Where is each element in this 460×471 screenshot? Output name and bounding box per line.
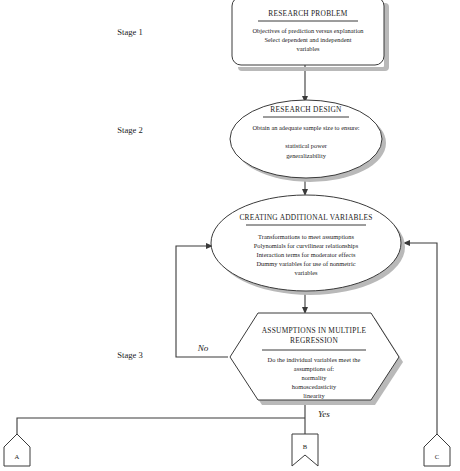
stage-label-3: Stage 3 [117,350,143,360]
offpage-connector-b[interactable]: B [292,434,318,466]
node-research-problem[interactable]: RESEARCH PROBLEM Objectives of predictio… [232,0,389,71]
stage-label-2: Stage 2 [117,125,143,135]
creating-variables-line-5: variables [294,269,318,276]
assumptions-line-2: assumptions of: [294,365,335,372]
research-problem-line-1: Objectives of prediction versus explanat… [252,27,364,34]
research-problem-line-2: Select dependent and independent [264,36,351,43]
research-design-line-1: Obtain an adequate sample size to ensure… [252,124,359,131]
assumptions-line-1: Do the individual variables meet the [268,356,361,363]
creating-variables-line-4: Dummy variables for use of nonmetric [256,260,355,267]
stage-label-1: Stage 1 [117,27,143,37]
assumptions-title-line-2: REGRESSION [290,336,338,345]
creating-variables-title: CREATING ADDITIONAL VARIABLES [239,213,372,222]
offpage-connector-a[interactable]: A [4,434,30,466]
flowchart-page: RESEARCH PROBLEM Objectives of predictio… [0,0,460,471]
connector-a-shape [4,434,30,466]
node-creating-additional-variables[interactable]: CREATING ADDITIONAL VARIABLES Transforma… [211,195,405,295]
flowchart-canvas: RESEARCH PROBLEM Objectives of predictio… [0,0,460,471]
assumptions-line-5: linearity [303,392,325,399]
research-problem-line-3: variables [296,45,320,52]
research-design-line-4: generalizability [286,152,327,159]
connector-c-shape [424,434,450,466]
connector-b-shape [292,434,318,466]
connector-b-label: B [303,443,308,450]
edge-to-a [17,418,305,434]
branch-label-yes: Yes [318,409,330,419]
branch-label-no: No [197,343,209,353]
creating-variables-line-1: Transformations to meet assumptions [258,233,354,240]
research-design-line-3: statistical power [285,142,328,149]
connector-c-label: C [435,453,440,460]
assumptions-title-line-1: ASSUMPTIONS IN MULTIPLE [262,326,367,335]
research-design-title: RESEARCH DESIGN [270,105,342,114]
creating-variables-line-3: Interaction terms for moderator effects [257,251,356,258]
node-research-design[interactable]: RESEARCH DESIGN Obtain an adequate sampl… [230,100,386,182]
assumptions-line-3: normality [302,374,328,381]
offpage-connector-c[interactable]: C [424,434,450,466]
assumptions-line-4: homoscedasticity [292,383,337,390]
research-problem-title: RESEARCH PROBLEM [268,9,348,18]
node-assumptions-in-multiple-regression[interactable]: ASSUMPTIONS IN MULTIPLE REGRESSION Do th… [230,313,403,405]
edge-c-return [408,243,437,434]
creating-variables-line-2: Polynomials for curvilinear relationship… [254,242,359,249]
connector-a-label: A [15,453,20,460]
